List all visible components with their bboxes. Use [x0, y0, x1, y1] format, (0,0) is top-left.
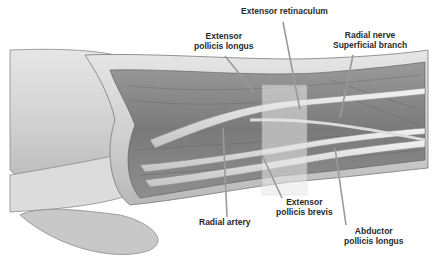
label-radial-nerve-superficial-branch: Radial nerve Superficial branch — [333, 30, 407, 50]
label-line-1: Abductor — [344, 226, 404, 236]
label-line-1: Radial nerve — [333, 30, 407, 40]
label-line-2: Superficial branch — [333, 40, 407, 50]
label-extensor-pollicis-longus: Extensor pollicis longus — [194, 31, 254, 51]
label-radial-artery: Radial artery — [199, 217, 251, 227]
label-line-2: pollicis brevis — [276, 207, 333, 217]
label-line-1: Extensor — [194, 31, 254, 41]
label-line-2: pollicis longus — [344, 236, 404, 246]
forearm — [85, 50, 428, 205]
extensor-retinaculum-band — [262, 85, 307, 195]
label-extensor-retinaculum: Extensor retinaculum — [241, 6, 328, 16]
label-line-2: pollicis longus — [194, 41, 254, 51]
label-extensor-pollicis-brevis: Extensor pollicis brevis — [276, 197, 333, 217]
label-abductor-pollicis-longus: Abductor pollicis longus — [344, 226, 404, 246]
label-line-1: Extensor — [276, 197, 333, 207]
finger-lower — [20, 209, 158, 254]
